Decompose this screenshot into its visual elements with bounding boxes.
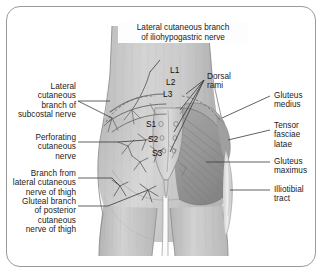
label-S1: S1 [146,120,156,129]
label-tensor-fasciae-latae: Tensor fasciae latae [274,121,320,149]
label-lateral-cutaneous-branch-of-iliohypogastric-nerve: Lateral cutaneous branch of iliohypogast… [118,22,248,43]
label-L3: L3 [163,90,172,99]
label-L2: L2 [166,78,175,87]
label-gluteus-medius: Gluteus medius [274,91,320,110]
label-gluteus-maximus: Gluteus maximus [274,157,322,176]
label-L1: L1 [170,66,179,75]
iliotibial-tract [223,150,232,236]
label-dorsal-rami: Dorsal rami [207,72,247,91]
label-lateral-cutaneous-branch-of-subcostal-nerve: Lateral cutaneous branch of subcostal ne… [6,82,76,120]
label-gluteal-branch-of-posterior-cutaneous-nerve-of-thigh: Gluteal branch of posterior cutaneous ne… [0,197,76,235]
anatomy-figure-panel: Lateral cutaneous branch of iliohypogast… [0,0,322,273]
label-perforating-cutaneous-nerve: Perforating cutaneous nerve [6,133,76,161]
label-branch-from-lateral-cutaneous-nerve-of-thigh: Branch from lateral cutaneous nerve of t… [0,169,76,197]
label-illiotibial-tract: Illiotibial tract [274,185,320,204]
label-S2: S2 [148,135,158,144]
label-S3: S3 [152,149,162,158]
